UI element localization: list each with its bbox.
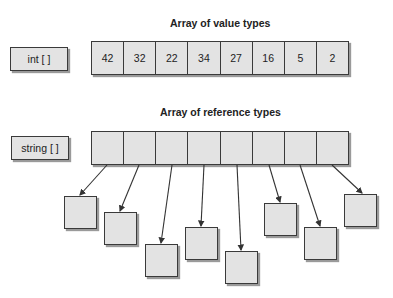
arrow-icon (300, 165, 320, 226)
string-object (304, 227, 337, 260)
string-object (185, 227, 218, 260)
arrow-icon (332, 165, 362, 193)
arrow-icon (269, 165, 280, 202)
arrow-icon (201, 165, 204, 226)
arrow-icon (120, 165, 139, 211)
arrow-icon (80, 165, 107, 195)
string-object (145, 244, 178, 277)
arrow-icon (237, 165, 241, 250)
string-object (264, 203, 297, 236)
string-object (344, 194, 377, 227)
arrow-icon (161, 165, 172, 243)
string-object (225, 251, 258, 284)
string-object (64, 196, 97, 229)
string-object (104, 212, 137, 245)
